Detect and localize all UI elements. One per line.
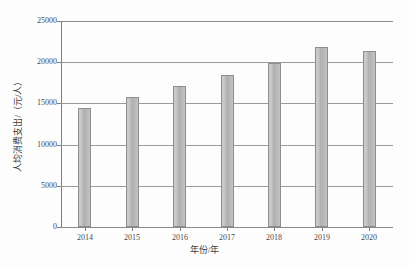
bar-2020 — [363, 51, 376, 227]
x-axis-tick-mark — [85, 228, 86, 231]
y-axis-tick-label: 10000 — [37, 141, 57, 149]
x-axis-tick-mark — [369, 228, 370, 231]
bar-2019 — [315, 47, 328, 227]
bar-2014 — [78, 108, 91, 227]
y-axis-tick-mark — [57, 227, 61, 228]
bar-2016 — [173, 86, 186, 227]
y-axis-tick-mark — [57, 145, 61, 146]
y-axis-tick-mark — [57, 62, 61, 63]
y-axis-tick-label: 5000 — [41, 182, 57, 190]
x-axis-tick-label: 2014 — [65, 233, 105, 242]
y-axis-tick-mark — [57, 186, 61, 187]
x-axis-tick-mark — [132, 228, 133, 231]
x-axis-tick-label: 2018 — [254, 233, 294, 242]
bar-2017 — [221, 75, 234, 227]
y-axis-tick-labels: 0500010000150002000025000 — [0, 0, 57, 268]
x-axis-tick-mark — [322, 228, 323, 231]
x-axis-tick-label: 2019 — [302, 233, 342, 242]
bar-chart-figure: 0500010000150002000025000 人均消费支出/（元/人） 年… — [0, 0, 409, 268]
y-axis-title: 人均消费支出/（元/人） — [13, 76, 23, 171]
x-axis-tick-label: 2016 — [160, 233, 200, 242]
plot-area — [61, 21, 393, 227]
bar-2015 — [126, 97, 139, 227]
y-axis-tick-mark — [57, 103, 61, 104]
bar-2018 — [268, 63, 281, 227]
x-axis-tick-mark — [274, 228, 275, 231]
y-axis-tick-label: 15000 — [37, 99, 57, 107]
x-axis-tick-label: 2017 — [207, 233, 247, 242]
x-axis-tick-label: 2020 — [349, 233, 389, 242]
y-axis-tick-mark — [57, 21, 61, 22]
gridline — [61, 62, 393, 63]
x-axis-tick-mark — [180, 228, 181, 231]
x-axis-tick-label: 2015 — [112, 233, 152, 242]
y-axis-tick-label: 25000 — [37, 17, 57, 25]
x-axis-tick-mark — [227, 228, 228, 231]
x-axis-title: 年份/年 — [0, 245, 409, 255]
y-axis-tick-label: 20000 — [37, 58, 57, 66]
